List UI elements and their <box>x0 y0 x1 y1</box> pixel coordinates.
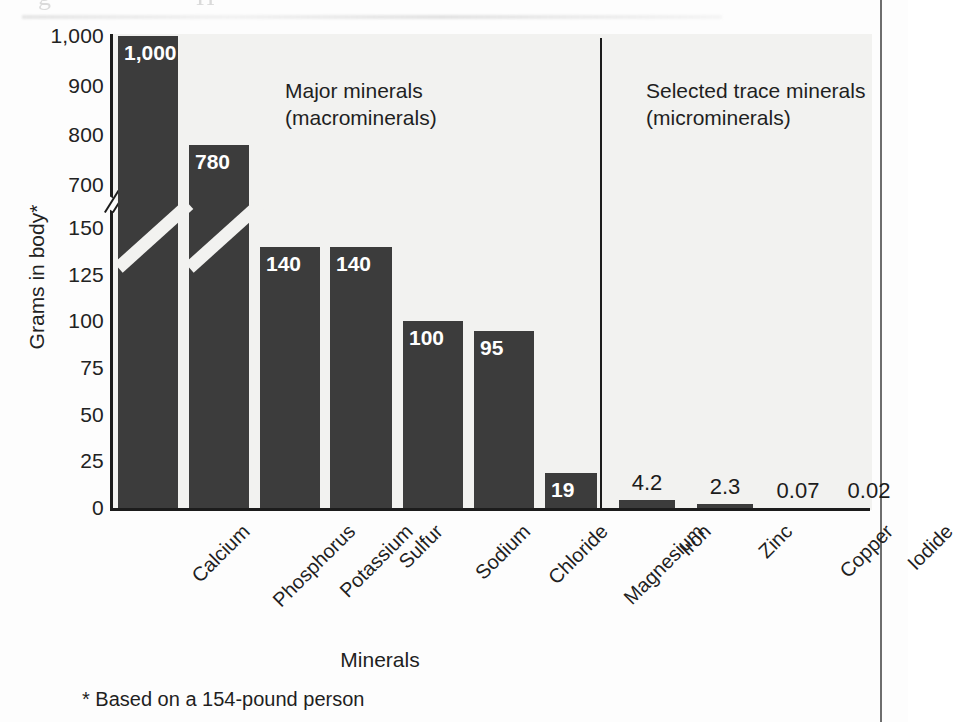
bar-value-label: 100 <box>409 326 469 350</box>
group-divider <box>600 38 602 510</box>
bar-value-label: 780 <box>195 150 255 174</box>
chart-footnote: * Based on a 154-pound person <box>82 688 364 711</box>
bar-value-label: 140 <box>266 252 326 276</box>
y-tick-label: 50 <box>12 403 104 427</box>
x-tick-label-chloride: Chloride <box>544 520 613 589</box>
annotation-major-minerals: Major minerals (macrominerals) <box>285 78 437 132</box>
bar-value-label: 95 <box>480 336 540 360</box>
y-axis-tick-labels: 1,0009008007001501251007550250 <box>0 0 104 722</box>
bar-potassium <box>260 247 320 508</box>
x-tick-label-phosphorus: Phosphorus <box>268 520 360 612</box>
bar-value-label: 0.07 <box>772 478 824 504</box>
y-axis-title: Grams in body* <box>25 162 49 392</box>
bar-value-label: 19 <box>551 478 603 502</box>
x-tick-label-zinc: Zinc <box>754 520 797 563</box>
y-axis-line <box>110 34 113 510</box>
bar-phosphorus <box>189 145 249 508</box>
y-tick-label: 1,000 <box>12 24 104 48</box>
y-tick-label: 900 <box>12 74 104 98</box>
x-tick-label-sodium: Sodium <box>471 520 535 584</box>
bar-sulfur <box>330 247 392 508</box>
bar-calcium <box>118 36 178 508</box>
x-axis-line <box>110 508 870 511</box>
bar-value-label: 140 <box>336 252 398 276</box>
x-tick-label-copper: Copper <box>835 520 898 583</box>
bar-iron <box>619 500 675 508</box>
bar-zinc <box>697 504 753 508</box>
bar-value-label: 1,000 <box>124 41 184 65</box>
x-axis-title: Minerals <box>0 648 760 672</box>
annotation-trace-minerals: Selected trace minerals (microminerals) <box>646 78 865 132</box>
y-tick-label: 0 <box>12 496 104 520</box>
x-tick-label-iodide: Iodide <box>903 520 957 575</box>
bar-value-label: 2.3 <box>697 474 753 500</box>
x-tick-label-calcium: Calcium <box>187 520 254 587</box>
y-tick-label: 25 <box>12 449 104 473</box>
y-tick-label: 800 <box>12 123 104 147</box>
bar-value-label: 4.2 <box>619 470 675 496</box>
bar-value-label: 0.02 <box>843 478 895 504</box>
